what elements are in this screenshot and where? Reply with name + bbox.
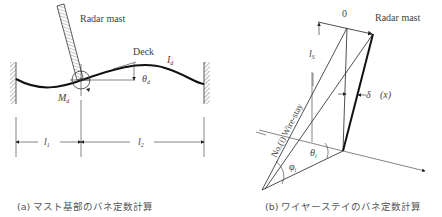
caption-a: (a) マスト基部のバネ定数計算 (17, 201, 153, 212)
figure-b: 0 Radar mast lS No.(i) Wire-stay δ (x) φ… (256, 8, 425, 212)
span-l2-label: l2 (138, 136, 144, 148)
right-wall (204, 62, 210, 104)
left-wall (10, 62, 16, 104)
theta-arc (325, 143, 328, 158)
wire-stay-label: No.(i) Wire-stay (269, 101, 305, 159)
span-l1-label: l1 (44, 136, 50, 148)
caption-b: (b) ワイヤーステイのバネ定数計算 (265, 201, 421, 212)
deck-label: Deck (133, 46, 154, 57)
phi-arc (276, 161, 284, 184)
deck-beam (16, 65, 204, 87)
height-label: lS (309, 48, 315, 60)
moment-label: Md (57, 92, 70, 104)
inertia-label: Id (166, 54, 174, 66)
mast-label-b: Radar mast (375, 12, 420, 23)
figure-a: Radar mast Deck Id θd Md l1 l2 (a) マスト基部… (10, 4, 210, 212)
x-label: (x) (380, 89, 392, 101)
phi-label: φi (289, 161, 297, 173)
mast-label: Radar mast (80, 13, 125, 24)
origin-label: 0 (342, 8, 347, 19)
theta-d-label: θd (142, 73, 151, 85)
moment-arrow-icon (86, 88, 90, 92)
theta-i-label: θi (310, 147, 317, 159)
delta-label: δ (366, 89, 371, 100)
